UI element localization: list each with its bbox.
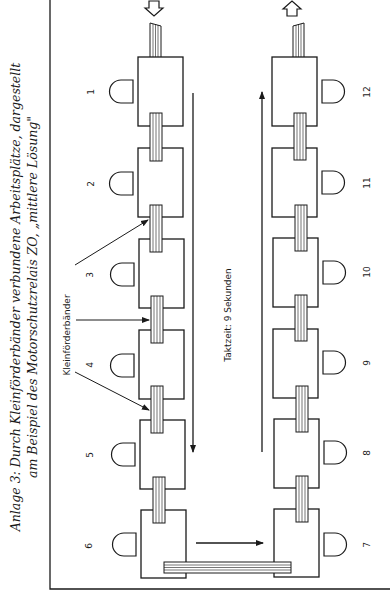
worker-icon bbox=[322, 171, 345, 194]
worker-icon bbox=[324, 533, 347, 556]
station-number: 2 bbox=[86, 181, 96, 187]
station-number: 8 bbox=[362, 450, 372, 456]
station-number: 9 bbox=[362, 360, 372, 366]
caption-line-1: Anlage 3: Durch Kleinförderbänder verbun… bbox=[8, 62, 23, 533]
worker-icon bbox=[113, 533, 137, 556]
worker-icon bbox=[323, 351, 346, 374]
worker-icon bbox=[323, 261, 346, 284]
small-conveyor bbox=[296, 386, 308, 432]
hollow-arrow-up-icon bbox=[283, 1, 301, 16]
diagram-caption: Anlage 3: Durch Kleinförderbänder verbun… bbox=[8, 62, 40, 533]
station-number: 5 bbox=[85, 452, 95, 458]
station-number: 7 bbox=[362, 542, 372, 548]
workstation-layout-diagram: Anlage 3: Durch Kleinförderbänder verbun… bbox=[0, 0, 390, 594]
small-conveyor bbox=[153, 477, 165, 523]
worker-icon bbox=[111, 354, 135, 377]
left-station-column: 1 2 3 4 5 6 bbox=[84, 57, 186, 578]
worker-icon bbox=[111, 263, 135, 286]
transfer-conveyor bbox=[164, 562, 291, 573]
worker-icon bbox=[110, 172, 133, 195]
station-number: 12 bbox=[362, 86, 372, 97]
station-number: 10 bbox=[362, 266, 372, 278]
station-number: 6 bbox=[84, 543, 94, 549]
small-conveyor bbox=[150, 205, 162, 252]
worker-icon bbox=[322, 80, 345, 103]
small-conveyor bbox=[150, 113, 162, 161]
small-conveyor bbox=[151, 296, 163, 343]
cycle-time-label: Taktzeit: 9 Sekunden bbox=[223, 268, 233, 363]
small-conveyor bbox=[295, 205, 307, 251]
pointer-arrow-icon bbox=[75, 372, 149, 410]
small-conveyors-label: Kleinförderbänder bbox=[62, 294, 72, 375]
station-number: 3 bbox=[85, 272, 95, 278]
right-station-column: 12 11 10 9 8 7 bbox=[272, 57, 372, 577]
small-conveyor bbox=[295, 295, 307, 341]
hollow-arrow-down-icon bbox=[145, 1, 163, 16]
station-number: 11 bbox=[362, 177, 372, 188]
small-conveyor bbox=[151, 386, 163, 433]
small-conveyor bbox=[296, 476, 308, 522]
station-number: 1 bbox=[86, 89, 96, 95]
station-number: 4 bbox=[85, 362, 95, 368]
caption-line-2: am Beispiel des Motorschutzrelais ZO, „m… bbox=[25, 116, 40, 478]
worker-icon bbox=[110, 80, 134, 103]
small-conveyor bbox=[294, 113, 306, 160]
worker-icon bbox=[112, 443, 136, 466]
worker-icon bbox=[324, 441, 347, 464]
pointer-arrow-icon bbox=[75, 220, 148, 265]
